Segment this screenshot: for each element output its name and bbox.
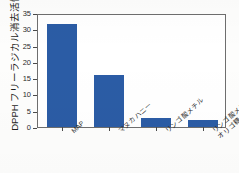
y-axis-tick-label: 25 xyxy=(15,43,31,51)
y-axis-tick-label: 10 xyxy=(15,92,31,100)
y-axis-tick-labels: 05101520253035 xyxy=(14,0,31,173)
y-axis-tick-label: 15 xyxy=(15,75,31,83)
y-axis-tick-label: 20 xyxy=(15,59,31,67)
x-axis-category-label: マヌカハニー xyxy=(117,129,122,135)
y-axis-tick-label: 0 xyxy=(15,124,31,132)
bar-series xyxy=(38,15,225,127)
x-axis-category-label: リンゴ酸メチル xyxy=(164,129,169,135)
bar xyxy=(94,75,124,127)
plot-area xyxy=(37,14,226,128)
bar xyxy=(47,24,77,127)
x-axis-category-label: MAP xyxy=(70,129,75,135)
x-axis-category-label-line: オリゴ糖 xyxy=(217,135,222,141)
chart-figure: DPPH フリーラジカル消去活性 (%) 05101520253035 MAPマ… xyxy=(0,0,239,173)
x-axis-category-label: リンゴ酸メチルとオリゴ糖 xyxy=(211,129,221,141)
y-axis-tick-label: 35 xyxy=(15,10,31,18)
x-axis-category-labels: MAPマヌカハニーリンゴ酸メチルリンゴ酸メチルとオリゴ糖 xyxy=(37,129,226,173)
y-axis-tick-label: 30 xyxy=(15,27,31,35)
y-axis-tick-label: 5 xyxy=(15,108,31,116)
